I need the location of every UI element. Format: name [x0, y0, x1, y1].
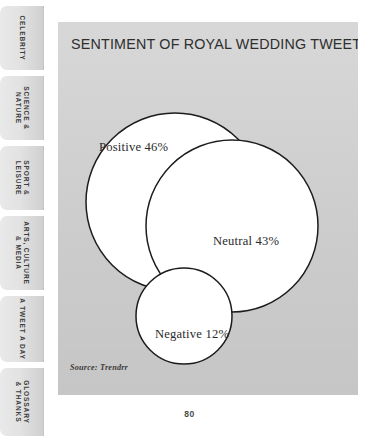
sidebar-item-celebrity[interactable]: CELEBRITY	[0, 6, 44, 70]
sidebar-item-label: SCIENCE &NATURE	[14, 86, 30, 130]
sidebar-item-label: GLOSSARY& THANKS	[14, 380, 30, 424]
sidebar-item-glossary-thanks[interactable]: GLOSSARY& THANKS	[0, 368, 44, 436]
sidebar-item-label: CELEBRITY	[18, 15, 26, 60]
bubble-label-positive: Positive 46%	[99, 140, 168, 155]
bubble-label-negative: Negative 12%	[155, 327, 229, 342]
page-panel: SENTIMENT OF ROYAL WEDDING TWEETS	[58, 22, 358, 395]
sidebar-item-sport-leisure[interactable]: SPORT &LEISURE	[0, 146, 44, 210]
page-number: 80	[0, 409, 379, 419]
sidebar-item-science-nature[interactable]: SCIENCE &NATURE	[0, 76, 44, 140]
sidebar-item-label: ARTS, CULTURE& MEDIA	[14, 221, 30, 285]
sidebar-item-arts-culture-media[interactable]: ARTS, CULTURE& MEDIA	[0, 216, 44, 290]
bubble-label-neutral: Neutral 43%	[213, 234, 279, 249]
sidebar-item-label: A TWEET A DAY	[18, 298, 26, 360]
page-title: SENTIMENT OF ROYAL WEDDING TWEETS	[71, 36, 356, 52]
sidebar-item-label: SPORT &LEISURE	[14, 160, 30, 195]
sidebar-tabs: CELEBRITY SCIENCE &NATURE SPORT &LEISURE…	[0, 0, 46, 442]
sidebar-item-a-tweet-a-day[interactable]: A TWEET A DAY	[0, 296, 44, 362]
source-note: Source: Trendrr	[70, 363, 128, 372]
